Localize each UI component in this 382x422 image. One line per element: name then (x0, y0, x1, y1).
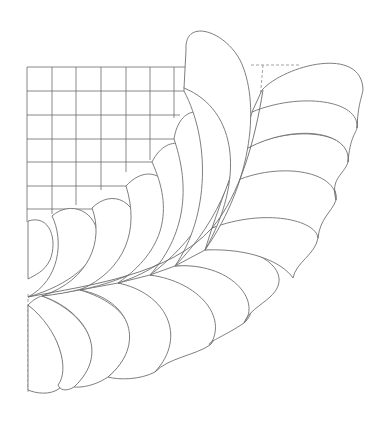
feather-pattern-drawing (0, 0, 382, 422)
plume (28, 220, 53, 279)
